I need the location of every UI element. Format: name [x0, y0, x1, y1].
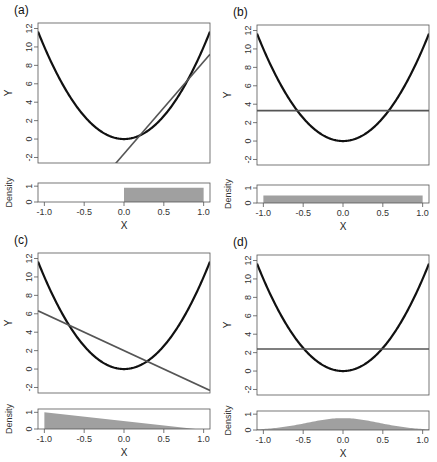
panel-label: (b) [233, 5, 248, 19]
figure-canvas: (a)-2024681012Y01Density-1.0-0.50.00.51.… [0, 0, 437, 462]
x-tick-label: 0.5 [158, 207, 171, 217]
y-tick-label: 8 [24, 63, 34, 68]
y-tick-label: 4 [24, 330, 34, 335]
density-tick-label: 1 [243, 412, 253, 417]
y-tick-label: -2 [243, 155, 253, 163]
quadratic-curve [257, 264, 429, 371]
y-tick-label: 0 [24, 137, 34, 142]
density-tick-label: 1 [24, 184, 34, 189]
x-tick-label: 0.5 [377, 435, 390, 445]
density-axis-label: Density [223, 178, 233, 209]
y-tick-label: 4 [243, 332, 253, 337]
x-tick-label: 1.0 [416, 435, 429, 445]
panel-c: (c)-2024681012Y01Density-1.0-0.50.00.51.… [3, 233, 210, 458]
x-tick-label: 1.0 [197, 207, 210, 217]
y-tick-label: -2 [243, 385, 253, 393]
x-tick-label: -0.5 [295, 435, 311, 445]
x-tick-label: -0.5 [295, 208, 311, 218]
density-area [263, 196, 422, 204]
x-tick-label: 1.0 [197, 434, 210, 444]
panel-a: (a)-2024681012Y01Density-1.0-0.50.00.51.… [3, 3, 210, 253]
x-tick-label: 0.5 [158, 434, 171, 444]
x-tick-label: 0.5 [377, 208, 390, 218]
panel-label: (d) [233, 235, 248, 249]
density-axis-label: Density [4, 177, 14, 208]
density-area [124, 188, 204, 202]
plot-frame [38, 23, 210, 163]
y-tick-label: -2 [24, 153, 34, 161]
density-area [44, 412, 195, 429]
y-tick-label: 10 [243, 44, 253, 54]
x-axis-label: X [340, 448, 347, 459]
fit-line [38, 311, 210, 391]
x-tick-label: -1.0 [37, 207, 53, 217]
density-tick-label: 0 [243, 427, 253, 432]
plot-frame [257, 255, 429, 395]
y-tick-label: 4 [243, 102, 253, 107]
panel-label: (c) [14, 233, 28, 247]
y-tick-label: 12 [24, 24, 34, 34]
y-tick-label: 10 [24, 272, 34, 282]
quadratic-curve [257, 34, 429, 141]
density-axis-label: Density [223, 405, 233, 436]
y-axis-label: Y [3, 89, 14, 96]
y-axis-label: Y [222, 321, 233, 328]
y-tick-label: 2 [243, 350, 253, 355]
x-tick-label: -1.0 [37, 434, 53, 444]
y-tick-label: 0 [24, 367, 34, 372]
x-tick-label: -1.0 [256, 208, 272, 218]
density-axis-label: Density [4, 403, 14, 434]
panel-d: (d)-2024681012Y01Density-1.0-0.50.00.51.… [222, 235, 429, 459]
y-tick-label: 2 [24, 348, 34, 353]
density-tick-label: 0 [24, 199, 34, 204]
x-axis-label: X [121, 447, 128, 458]
density-tick-label: 1 [24, 410, 34, 415]
plot-frame [257, 25, 429, 165]
y-axis-label: Y [3, 319, 14, 326]
y-tick-label: 2 [243, 120, 253, 125]
y-axis-label: Y [222, 91, 233, 98]
x-tick-label: 0.0 [118, 434, 131, 444]
y-tick-label: 6 [243, 83, 253, 88]
y-tick-label: 6 [24, 81, 34, 86]
y-tick-label: 6 [24, 311, 34, 316]
y-tick-label: 8 [243, 65, 253, 70]
y-tick-label: 10 [24, 42, 34, 52]
y-tick-label: 12 [243, 26, 253, 36]
quadratic-curve [38, 262, 210, 369]
x-tick-label: 0.0 [118, 207, 131, 217]
x-tick-label: 0.0 [337, 435, 350, 445]
x-axis-label: X [121, 220, 128, 231]
y-tick-label: 12 [24, 254, 34, 264]
y-tick-label: 0 [243, 139, 253, 144]
y-tick-label: 6 [243, 313, 253, 318]
y-tick-label: 8 [243, 295, 253, 300]
y-tick-label: -2 [24, 383, 34, 391]
y-tick-label: 10 [243, 274, 253, 284]
y-tick-label: 8 [24, 293, 34, 298]
panel-b: (b)-2024681012Y01Density-1.0-0.50.00.51.… [222, 5, 429, 232]
x-axis-label: X [340, 221, 347, 232]
panel-label: (a) [14, 3, 29, 17]
y-tick-label: 4 [24, 100, 34, 105]
density-tick-label: 0 [24, 426, 34, 431]
x-tick-label: -0.5 [76, 207, 92, 217]
y-tick-label: 2 [24, 118, 34, 123]
y-tick-label: 12 [243, 256, 253, 266]
x-tick-label: -0.5 [76, 434, 92, 444]
y-tick-label: 0 [243, 369, 253, 374]
x-tick-label: 0.0 [337, 208, 350, 218]
density-tick-label: 0 [243, 200, 253, 205]
density-area [257, 418, 429, 430]
density-tick-label: 1 [243, 185, 253, 190]
x-tick-label: 1.0 [416, 208, 429, 218]
x-tick-label: -1.0 [256, 435, 272, 445]
